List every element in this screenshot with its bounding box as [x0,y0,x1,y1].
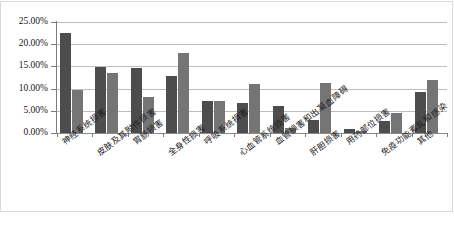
bar [178,53,189,133]
bar [391,113,402,133]
bar [107,73,118,133]
x-axis-tick-mark [163,133,164,137]
bar [166,76,177,133]
x-axis-tick-mark [57,133,58,137]
y-axis-tick-label: 10.00% [0,83,48,93]
y-axis-tick-label: 5.00% [0,105,48,115]
y-axis-tick-label: 0.00% [0,127,48,137]
bar [60,33,71,133]
chart-figure: 0.00%5.00%10.00%15.00%20.00%25.00% 神经系统损… [0,0,454,241]
x-axis-tick-mark [92,133,93,137]
x-axis-tick-mark [447,133,448,137]
bar-group [163,22,198,133]
y-axis-tick-label: 20.00% [0,38,48,48]
x-axis-tick-mark [234,133,235,137]
bar [249,84,260,133]
y-axis-tick-label: 25.00% [0,16,48,26]
x-axis-tick-mark [376,133,377,137]
y-axis-tick-label: 15.00% [0,60,48,70]
bar [95,67,106,133]
x-axis-tick-mark [305,133,306,137]
